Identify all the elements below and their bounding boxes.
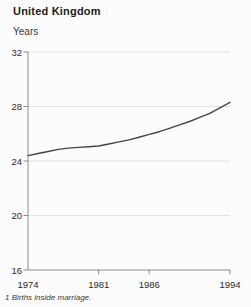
x-tick-label: 1974 [17, 279, 38, 290]
y-tick-label: 32 [11, 47, 22, 58]
y-tick-label: 28 [11, 101, 22, 112]
x-tick-label: 1981 [88, 279, 109, 290]
line-chart: 16202428321974198119861994 [0, 0, 251, 307]
y-tick-label: 20 [11, 210, 22, 221]
chart-footnote: 1 Births inside marriage. [5, 293, 91, 302]
data-line-series [28, 102, 230, 155]
x-tick-label: 1986 [139, 279, 160, 290]
y-tick-label: 24 [11, 156, 22, 167]
statistics-chart-figure: United Kingdom Years 1620242832197419811… [0, 0, 251, 307]
y-tick-label: 16 [11, 265, 22, 276]
x-tick-label: 1994 [219, 279, 240, 290]
